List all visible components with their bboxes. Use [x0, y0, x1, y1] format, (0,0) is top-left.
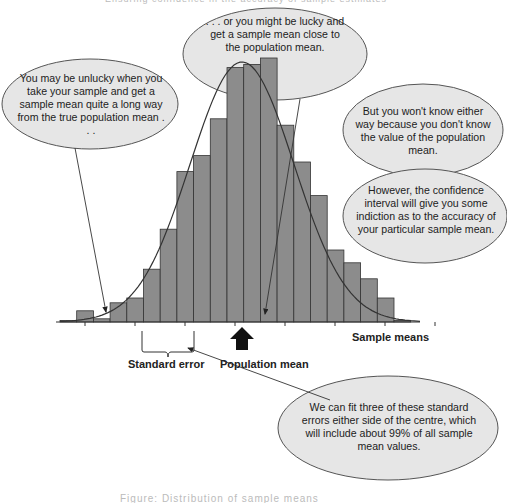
histogram-bar: [160, 229, 177, 322]
histogram-bar: [260, 58, 277, 322]
standard-error-brace: [142, 331, 194, 357]
standard-error-label: Standard error: [128, 358, 204, 370]
histogram-bar: [127, 298, 144, 322]
histogram-bar: [294, 162, 311, 322]
histogram-bar: [311, 196, 328, 322]
sample-means-label: Sample means: [352, 331, 429, 343]
bubble-wont-know-text: But you won't know either way because yo…: [355, 105, 491, 157]
histogram-bar: [144, 269, 161, 322]
histogram-bar: [344, 263, 361, 322]
three-se-pointer-arrow: [188, 348, 330, 400]
population-mean-label: Population mean: [220, 358, 309, 370]
population-mean-arrow-icon: [230, 327, 254, 350]
histogram-bar: [194, 156, 211, 322]
bubble-confidence-text: However, the confidence interval will gi…: [356, 184, 496, 236]
unlucky-pointer-arrow: [75, 148, 106, 312]
histogram-bar: [244, 64, 261, 322]
histogram-bar: [177, 172, 194, 322]
bubble-unlucky-text: You may be unlucky when you take your sa…: [16, 72, 166, 137]
histogram-bar: [210, 119, 227, 322]
histogram-bar: [110, 303, 127, 322]
histogram-bar: [227, 68, 244, 322]
bubble-lucky-text: . . . or you might be lucky and get a sa…: [205, 15, 345, 54]
axis-ticks: [85, 322, 435, 326]
histogram-bar: [361, 279, 378, 322]
bubble-three-se-text: We can fit three of these standard error…: [300, 401, 478, 453]
figure-caption: Figure: Distribution of sample means: [120, 493, 440, 503]
histogram-bar: [327, 250, 344, 322]
